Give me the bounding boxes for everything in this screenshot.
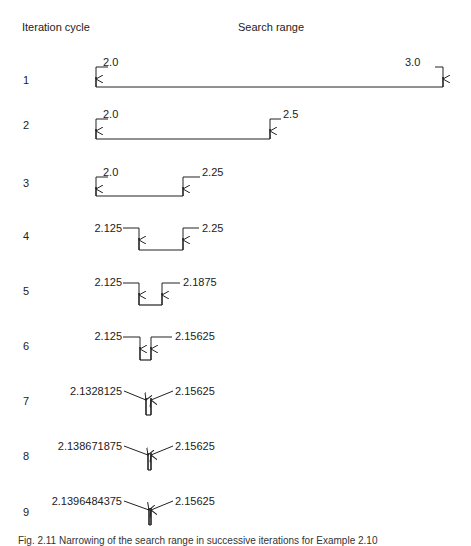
upper-bound-label: 3.0 — [405, 56, 420, 68]
search-range-row: 2.02.5 — [96, 108, 298, 139]
upper-bound-label: 2.25 — [202, 222, 223, 234]
lower-bound-label: 2.0 — [103, 108, 118, 120]
search-range-row: 2.1252.25 — [94, 222, 223, 250]
search-range-row: 2.03.0 — [96, 56, 443, 87]
search-range-row: 2.13964843752.15625 — [52, 495, 215, 525]
search-range-row: 2.1252.15625 — [94, 330, 214, 360]
upper-bound-label: 2.15625 — [175, 495, 215, 507]
lower-bound-label: 2.1328125 — [70, 385, 122, 397]
lower-bound-label: 2.138671875 — [58, 440, 122, 452]
search-range-row: 2.13281252.15625 — [70, 385, 215, 415]
lower-bound-label: 2.0 — [103, 166, 118, 178]
upper-bound-label: 2.25 — [202, 166, 223, 178]
upper-bound-label: 2.15625 — [175, 440, 215, 452]
figure-caption: Fig. 2.11 Narrowing of the search range … — [18, 535, 377, 546]
lower-bound-label: 2.1396484375 — [52, 495, 122, 507]
upper-bound-label: 2.15625 — [175, 385, 215, 397]
lower-bound-label: 2.125 — [94, 330, 122, 342]
upper-bound-label: 2.15625 — [175, 330, 215, 342]
lower-bound-label: 2.0 — [103, 56, 118, 68]
lower-bound-label: 2.125 — [94, 222, 122, 234]
upper-bound-label: 2.5 — [283, 108, 298, 120]
upper-bound-label: 2.1875 — [183, 276, 217, 288]
search-range-row: 2.1386718752.15625 — [58, 440, 215, 470]
search-range-row: 2.1252.1875 — [94, 276, 216, 305]
lower-bound-label: 2.125 — [94, 276, 122, 288]
search-range-row: 2.02.25 — [96, 166, 223, 196]
